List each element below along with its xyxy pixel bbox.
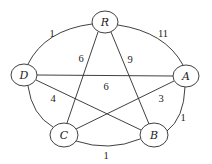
edge-R-C <box>67 32 98 123</box>
node-D: D <box>11 64 37 86</box>
node-label-D: D <box>19 69 29 82</box>
weight-R-A: 11 <box>158 28 168 39</box>
weight-A-B: 1 <box>180 112 185 123</box>
weight-R-C: 6 <box>78 53 83 64</box>
weight-D-A: 6 <box>103 81 108 92</box>
weight-A-C: 3 <box>158 93 163 104</box>
weight-D-B: 4 <box>50 93 56 104</box>
node-C: C <box>50 123 78 147</box>
node-label-A: A <box>181 70 190 83</box>
edge-D-A <box>37 75 173 76</box>
edge-D-C <box>28 86 53 127</box>
node-label-B: B <box>149 129 158 142</box>
node-B: B <box>140 123 168 147</box>
weight-C-B: 1 <box>103 150 108 161</box>
edge-A-B <box>167 87 185 131</box>
node-R: R <box>92 11 118 33</box>
weight-R-B: 9 <box>127 54 132 65</box>
edge-A-C <box>76 81 174 129</box>
edge-C-B <box>76 139 140 146</box>
weight-R-D: 1 <box>49 28 54 39</box>
node-A: A <box>173 65 199 87</box>
weighted-graph-diagram: R D A C B 1 11 6 9 6 4 3 1 1 <box>0 0 212 164</box>
node-label-R: R <box>100 16 109 29</box>
edge-R-B <box>111 32 149 124</box>
node-label-C: C <box>60 129 69 142</box>
